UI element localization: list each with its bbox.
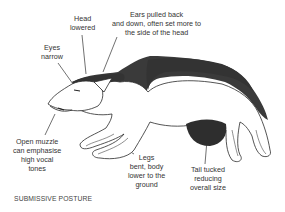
label-tail: Tail tucked reducing overall size <box>190 165 226 192</box>
leader-eyes <box>58 63 73 84</box>
figure-caption: SUBMISSIVE POSTURE <box>14 195 92 202</box>
label-legs: Legs bent, body lower to the ground <box>128 153 165 189</box>
label-eyes: Eyes narrow <box>41 43 63 61</box>
leader-head <box>82 35 86 74</box>
label-muzzle: Open muzzle can emphasise high vocal ton… <box>13 137 61 173</box>
leader-ears <box>103 37 117 72</box>
leader-muzzle <box>45 114 55 135</box>
label-head: Head lowered <box>70 14 95 32</box>
label-ears: Ears pulled back and down, often set mor… <box>112 10 201 37</box>
wolf-body <box>48 56 271 162</box>
